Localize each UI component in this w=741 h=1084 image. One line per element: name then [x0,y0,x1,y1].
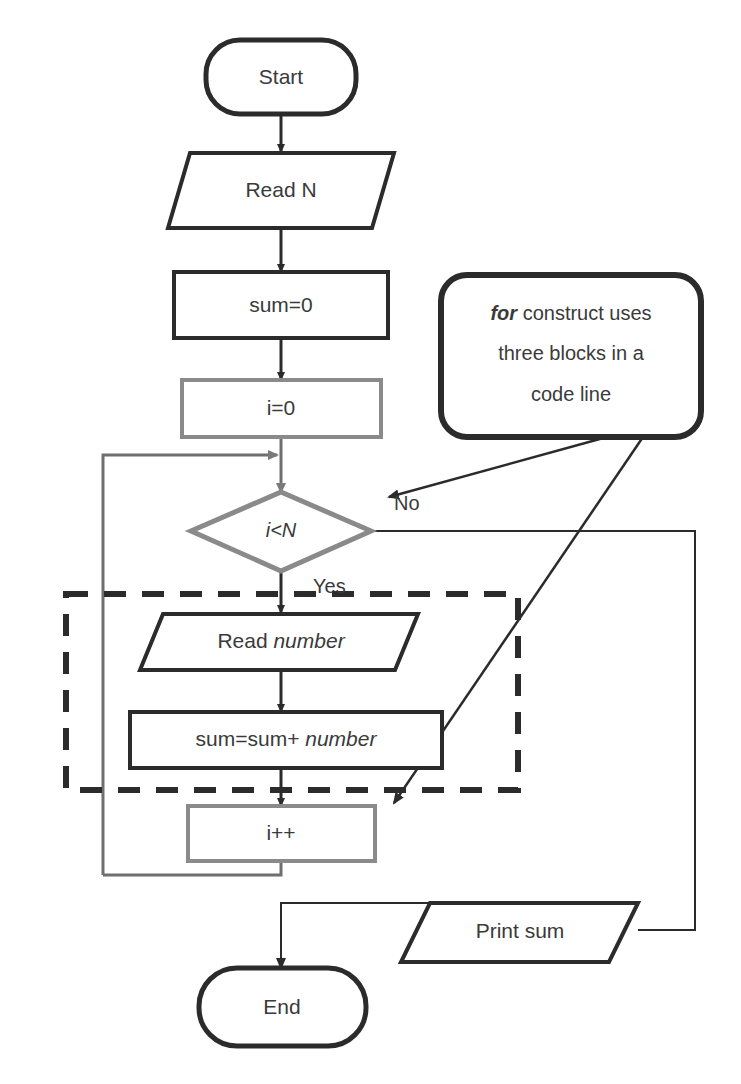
node-read-number[interactable]: Read number [140,614,418,670]
edge-label-no: No [394,492,420,514]
accumulate-label: sum=sum+ number [196,727,378,750]
read-number-label: Read number [217,629,345,652]
callout-line-1: for construct uses [490,302,651,324]
node-i-init[interactable]: i=0 [182,380,381,437]
condition-label: i<N [266,519,297,541]
print-sum-label: Print sum [476,919,565,942]
callout-line-3: code line [531,383,611,405]
node-print-sum[interactable]: Print sum [401,903,638,962]
flowchart-canvas: Start Read N sum=0 i=0 i<N Read number [0,0,741,1084]
callout-line1-rest: construct uses [517,302,652,324]
accumulate-label-italic: number [305,727,377,750]
callout-line-2: three blocks in a [498,342,645,364]
connector-increment-to-loop [103,861,281,875]
edge-label-yes: Yes [313,575,346,597]
increment-label: i++ [266,821,295,844]
node-start[interactable]: Start [206,40,356,114]
i-init-label: i=0 [267,396,296,419]
node-accumulate[interactable]: sum=sum+ number [130,712,442,768]
start-label: Start [259,65,304,88]
callout-note[interactable]: for construct uses three blocks in a cod… [441,275,701,437]
node-increment[interactable]: i++ [188,806,375,861]
callout-emphasis: for [490,302,518,324]
node-sum-init[interactable]: sum=0 [174,272,388,338]
read-number-label-plain: Read [217,629,273,652]
accumulate-label-plain: sum=sum+ [196,727,306,750]
sum-init-label: sum=0 [249,293,313,316]
read-n-label: Read N [245,178,316,201]
node-read-n[interactable]: Read N [168,153,394,228]
callout-pointer-no [389,437,607,497]
flowchart-svg: Start Read N sum=0 i=0 i<N Read number [0,0,741,1084]
read-number-label-italic: number [273,629,345,652]
node-end[interactable]: End [199,968,366,1046]
end-label: End [263,995,300,1018]
node-condition[interactable]: i<N [191,492,371,571]
